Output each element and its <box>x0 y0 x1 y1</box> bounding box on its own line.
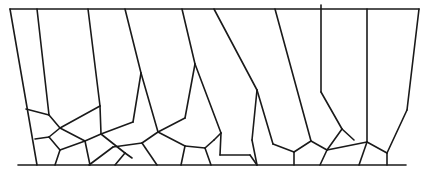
grain-boundary-segment <box>275 9 311 141</box>
grain-boundary-segment <box>49 128 60 137</box>
grain-boundary-segment <box>205 148 211 165</box>
grain-boundary-segment <box>205 140 214 148</box>
grain-boundary-segment <box>158 118 185 132</box>
grain-boundary-segment <box>115 153 125 165</box>
grain-boundary-segment <box>55 150 60 165</box>
grain-boundary-segment <box>60 128 85 141</box>
grain-boundary-segment <box>49 137 60 150</box>
grain-boundary-segment <box>214 9 257 90</box>
grain-boundary-segment <box>294 141 311 152</box>
grain-boundary-segment <box>125 153 132 158</box>
grain-boundary-segment <box>101 134 125 153</box>
boundary-lines <box>10 9 419 165</box>
grain-boundary-segment <box>273 144 294 152</box>
grain-boundary-segment <box>133 73 141 122</box>
grain-boundary-segment <box>49 115 60 128</box>
grain-boundary-segment <box>125 9 141 73</box>
grain-boundary-segment <box>321 92 342 129</box>
grain-boundary-segment <box>327 142 367 150</box>
grain-boundary-segment <box>60 141 85 150</box>
grain-boundary-segment <box>158 132 185 146</box>
grain-boundary-segment <box>359 142 367 165</box>
grain-boundary-segment <box>85 141 90 165</box>
grain-boundary-segment <box>101 122 133 134</box>
grain-boundary-segment <box>142 143 157 165</box>
grain-boundary-segment <box>35 137 49 139</box>
grain-boundary-segment <box>181 146 185 165</box>
grain-boundary-segment <box>182 9 195 64</box>
grain-boundary-segment <box>141 73 158 132</box>
grain-boundary-segment <box>142 132 158 143</box>
grain-boundary-segment <box>387 110 407 153</box>
grain-boundary-segment <box>311 141 327 150</box>
grain-boundary-segment <box>89 147 113 165</box>
grain-boundary-segment <box>320 150 327 165</box>
grain-boundary-segment <box>367 142 387 153</box>
grain-boundary-segment <box>85 134 101 141</box>
grain-boundary-segment <box>10 9 37 165</box>
grain-boundary-segment <box>220 133 221 155</box>
grain-boundaries <box>10 5 419 165</box>
grain-boundary-segment <box>342 129 354 140</box>
grain-structure-diagram <box>0 0 428 177</box>
grain-boundary-segment <box>195 64 221 133</box>
grain-boundary-segment <box>113 143 142 147</box>
grain-boundary-segment <box>252 90 257 140</box>
grain-boundary-segment <box>60 106 100 128</box>
grain-boundary-segment <box>100 106 101 134</box>
grain-boundary-segment <box>407 9 419 110</box>
grain-boundary-segment <box>37 9 49 115</box>
grain-boundary-segment <box>185 64 195 118</box>
grain-boundary-segment <box>257 90 273 144</box>
grain-boundary-segment <box>26 109 49 115</box>
grain-boundary-segment <box>88 9 100 106</box>
grain-boundary-segment <box>185 146 205 148</box>
